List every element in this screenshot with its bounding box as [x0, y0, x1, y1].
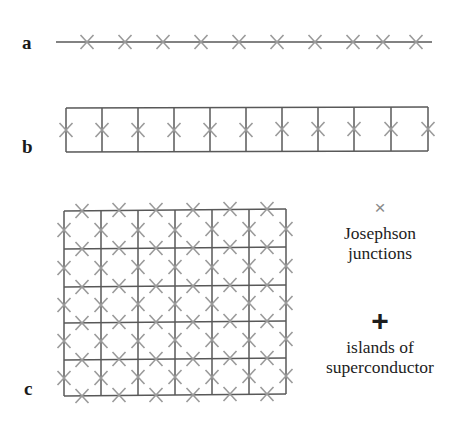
- legend-josephson-junctions: × Josephson junctions: [300, 198, 460, 263]
- legend-islands-label: islands of superconductor: [300, 338, 460, 377]
- legend-islands-line1: islands of: [300, 338, 460, 358]
- figure-container: a b c × Josephson junctions + islands of…: [0, 0, 470, 434]
- panel-label-c: c: [24, 379, 32, 398]
- panel-c-lattice: [58, 202, 293, 403]
- legend-islands-line2: superconductor: [300, 358, 460, 378]
- legend-junctions-line2: junctions: [300, 244, 460, 264]
- cross-marker-icon: ×: [300, 198, 460, 217]
- legend-junctions-label: Josephson junctions: [300, 224, 460, 263]
- legend-islands-of-superconductor: + islands of superconductor: [300, 306, 460, 377]
- panel-a-chain: [56, 35, 432, 49]
- panel-label-b: b: [22, 137, 33, 156]
- panel-label-a: a: [22, 33, 32, 52]
- legend-junctions-line1: Josephson: [300, 224, 460, 244]
- panel-b-ladder: [60, 107, 435, 152]
- plus-marker-icon: +: [300, 306, 460, 336]
